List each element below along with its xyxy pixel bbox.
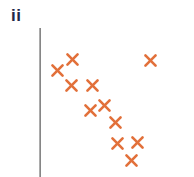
scatter-plot-panel: ii — [0, 0, 194, 177]
plot-area — [0, 0, 194, 177]
